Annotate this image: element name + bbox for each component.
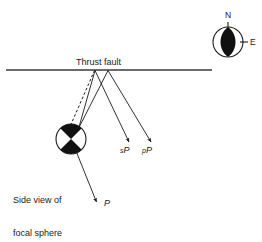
phase-label-P: P [104, 198, 110, 208]
phase-label-pP: pP [142, 145, 152, 155]
ray-sP-upgoing-solid [79, 71, 95, 128]
compass-north-label: N [225, 10, 231, 20]
phase-pP-main: P [146, 145, 152, 155]
map-view-beachball [211, 22, 248, 59]
thrust-fault-diagram: Thrust fault Side view of focal sphere s… [0, 0, 262, 242]
compass-east-label: E [250, 37, 256, 47]
side-view-caption-line1: Side view of [13, 195, 62, 206]
fault-label: Thrust fault [76, 57, 121, 68]
phase-label-sP: sP [120, 145, 130, 155]
ray-pP-downgoing [108, 71, 151, 143]
side-view-caption: Side view of focal sphere [13, 173, 62, 242]
phase-P-main: P [104, 198, 110, 208]
focal-sphere-side-view [54, 113, 88, 164]
phase-sP-main: P [124, 145, 130, 155]
ray-pP-upgoing [80, 71, 109, 127]
side-view-caption-line2: focal sphere [13, 228, 62, 239]
ray-direct-P [76, 151, 97, 202]
ray-sP-upgoing-dashed [71, 71, 95, 126]
ray-sP-downgoing [95, 71, 129, 143]
